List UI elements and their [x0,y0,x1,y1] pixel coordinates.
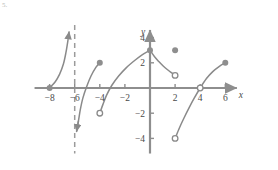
y-tick-label: −2 [135,109,145,119]
x-tick-label: 2 [173,93,178,103]
x-tick-label: −4 [95,93,105,103]
point-4-0 [197,85,203,91]
point-neg8-0 [47,85,53,91]
x-tick-label: −8 [45,93,55,103]
figure-container: 5. xy−8−6−4−224642−2−4 [0,0,278,170]
point-2-neg4 [172,136,178,142]
point-neg4-neg2 [97,110,103,116]
point-0-3 [147,47,153,53]
x-tick-label: −2 [120,93,130,103]
y-tick-label: −4 [135,134,145,144]
graph-plot: xy−8−6−4−224642−2−4 [0,0,278,170]
point-neg4-2 [97,60,103,66]
point-2-1 [172,73,178,79]
branch-2-down-arrow [77,121,79,132]
point-2-3 [172,47,178,53]
x-axis-label: x [238,90,244,100]
point-6-2 [222,60,228,66]
y-tick-label: 2 [140,58,145,68]
y-tick-label: 4 [140,33,145,43]
x-tick-label: −6 [70,93,80,103]
x-tick-label: 4 [198,93,203,103]
x-tick-label: 6 [223,93,228,103]
branch-1 [50,32,69,88]
